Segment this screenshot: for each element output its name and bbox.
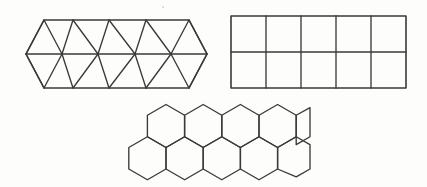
paper-speck-icon (162, 6, 164, 8)
hexagon-bottom-3 (203, 137, 240, 180)
tri-edge-l8 (146, 54, 171, 88)
tri-edge-u3 (62, 20, 73, 54)
hexagon-top-2 (185, 105, 222, 148)
tri-edge-u9 (171, 20, 189, 54)
tri-edge-l2 (44, 54, 62, 88)
hexagon-bottom-1 (129, 137, 166, 180)
hexagon-row-bottom (129, 137, 310, 180)
hexagon-top-5 (296, 108, 310, 145)
figure-canvas (0, 0, 427, 187)
triangular-tiling-panel (26, 20, 207, 88)
hexagonal-tiling-panel (129, 105, 310, 180)
tri-edge-u2 (44, 20, 62, 54)
tri-edge-l3 (62, 54, 73, 88)
hexagon-bottom-5 (278, 137, 310, 177)
hexagon-bottom-4 (240, 137, 277, 180)
tri-edge-u8 (146, 20, 171, 54)
hexagon-top-3 (222, 105, 259, 148)
tri-edge-l10 (189, 54, 207, 88)
tri-edge-u5 (98, 20, 109, 54)
tri-edge-l6 (109, 54, 135, 88)
triangular-tiling-lower-edges (26, 54, 207, 88)
hexagon-bottom-2 (166, 137, 203, 180)
tri-edge-l1 (26, 54, 44, 88)
tri-edge-l4 (73, 54, 98, 88)
tri-edge-u10 (189, 20, 207, 54)
square-tiling-panel (231, 16, 406, 88)
tri-edge-u1 (26, 20, 44, 54)
tilings-diagram (0, 0, 427, 187)
tri-edge-l7 (135, 54, 146, 88)
tri-edge-u6 (109, 20, 135, 54)
tri-edge-u4 (73, 20, 98, 54)
triangular-tiling-upper-edges (26, 20, 207, 54)
tri-edge-u7 (135, 20, 146, 54)
hexagon-top-4 (259, 105, 296, 148)
tri-edge-l9 (171, 54, 189, 88)
tri-edge-l5 (98, 54, 109, 88)
hexagon-top-1 (147, 105, 184, 148)
